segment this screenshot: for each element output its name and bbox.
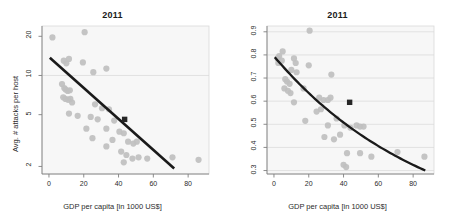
y-tick-label: 0.5 (250, 113, 257, 133)
y-tick-label: 0.6 (250, 90, 257, 110)
x-tick-label: 80 (178, 180, 198, 187)
y-tick-label: 5 (25, 103, 32, 123)
left-y-axis-label: Avg. # attacks per host (11, 76, 20, 152)
y-tick-label: 0.7 (250, 67, 257, 87)
x-tick-label: 40 (334, 180, 354, 187)
y-tick-label: 0.8 (250, 43, 257, 63)
right-panel: 2011 % attacked hosts GDP per capita [in… (225, 0, 450, 219)
x-tick-label: 60 (143, 180, 163, 187)
x-tick-label: 0 (39, 180, 59, 187)
y-tick-label: 0.4 (250, 136, 257, 156)
x-tick-label: 20 (74, 180, 94, 187)
x-tick-label: 60 (368, 180, 388, 187)
left-panel: 2011 Avg. # attacks per host GDP per cap… (0, 0, 225, 219)
x-tick-label: 20 (299, 180, 319, 187)
y-tick-label: 0.3 (250, 159, 257, 179)
x-tick-label: 80 (403, 180, 423, 187)
right-x-axis-label: GDP per capita [in 1000 US$] (225, 202, 450, 211)
x-tick-label: 0 (264, 180, 284, 187)
y-tick-label: 20 (25, 25, 32, 45)
y-tick-label: 2 (25, 155, 32, 175)
y-tick-label: 0.9 (250, 20, 257, 40)
x-tick-label: 40 (109, 180, 129, 187)
y-tick-label: 10 (25, 64, 32, 84)
figure-two-scatter-panels: 2011 Avg. # attacks per host GDP per cap… (0, 0, 450, 219)
left-x-axis-label: GDP per capita [in 1000 US$] (0, 202, 225, 211)
